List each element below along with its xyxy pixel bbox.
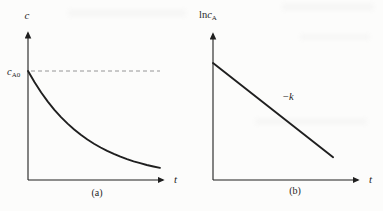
initial-concentration-label: cA0 — [7, 66, 21, 79]
x-axis-label: t — [369, 173, 373, 185]
panel-b-caption: (b) — [289, 185, 301, 197]
log-concentration-line — [213, 63, 333, 157]
panel-a-caption: (a) — [91, 187, 102, 199]
chart-a-concentration-decay: c cA0 t (a) — [0, 0, 190, 211]
figure-first-order-kinetics: c cA0 t (a) lncA −k t (b) — [0, 0, 383, 211]
chart-b-log-concentration-line: lncA −k t (b) — [190, 0, 383, 211]
concentration-decay-curve — [28, 71, 160, 168]
slope-label: −k — [283, 91, 294, 102]
y-axis-label: lncA — [199, 9, 217, 22]
x-axis-label: t — [174, 173, 178, 185]
y-axis-label: c — [25, 9, 30, 21]
